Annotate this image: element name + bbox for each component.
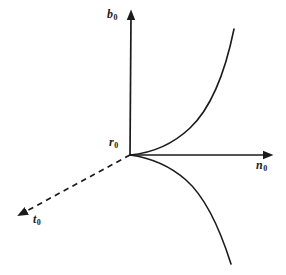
t0-axis-dashed-line	[22, 155, 130, 214]
t0-symbol: t	[33, 212, 36, 226]
r0-subscript: 0	[114, 141, 118, 150]
r0-symbol: r	[109, 135, 114, 149]
b0-axis-line	[130, 15, 131, 155]
lower-branch-curve	[130, 155, 231, 264]
t0-subscript: 0	[37, 218, 41, 227]
n0-subscript: 0	[263, 164, 267, 173]
figure-container: b0 n0 t0 r0	[0, 0, 286, 275]
t0-axis-label: t0	[33, 213, 40, 225]
upper-branch-curve	[130, 29, 234, 155]
n0-symbol: n	[256, 158, 263, 172]
b0-symbol: b	[107, 7, 113, 21]
b0-subscript: 0	[114, 13, 118, 22]
coordinate-frame-diagram	[0, 0, 286, 275]
n0-axis-label: n0	[256, 159, 267, 171]
origin-label: r0	[109, 136, 118, 148]
b0-axis-label: b0	[107, 8, 117, 20]
